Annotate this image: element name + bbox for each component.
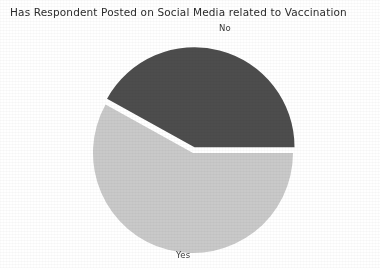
pie-slice-label-yes: Yes — [176, 250, 190, 260]
pie-slice-label-no: No — [219, 23, 231, 33]
pie-slices — [93, 47, 295, 253]
chart-figure: Has Respondent Posted on Social Media re… — [0, 0, 380, 268]
pie-chart — [0, 0, 380, 268]
